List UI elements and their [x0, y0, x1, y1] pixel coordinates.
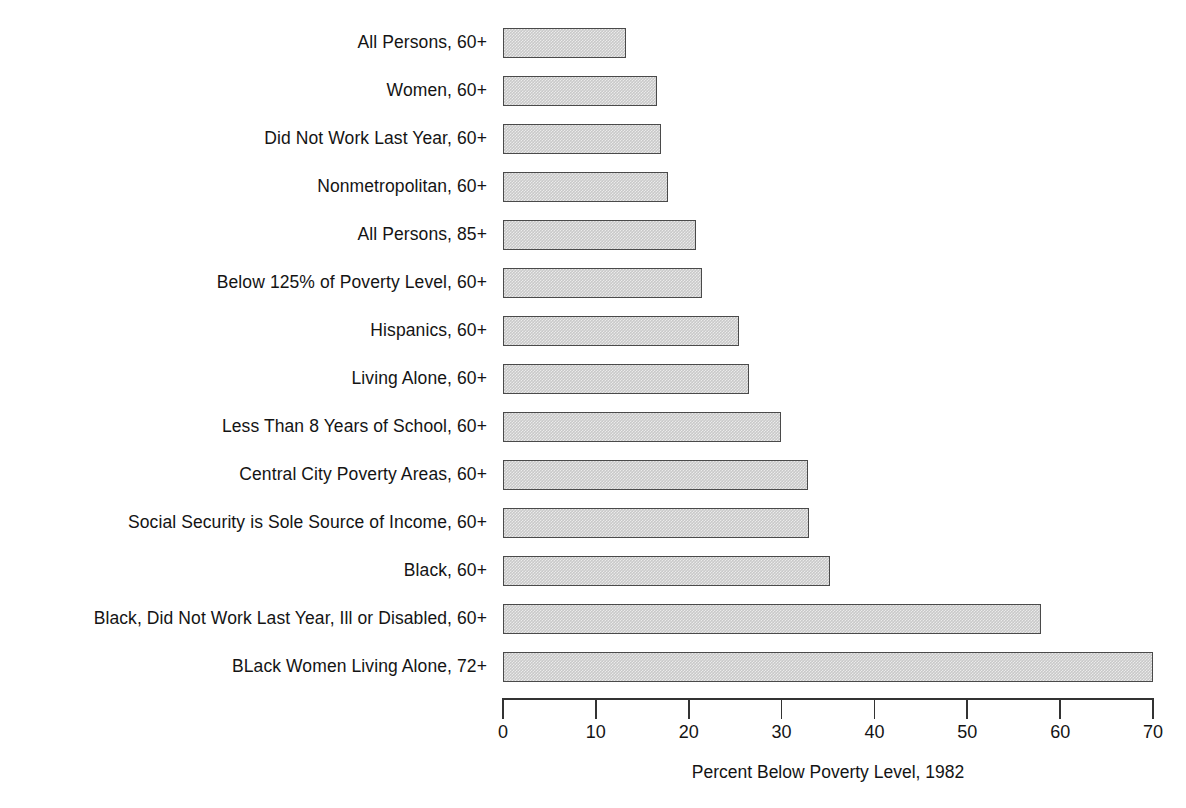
bar-row: Living Alone, 60+ — [0, 364, 1186, 394]
x-axis-tick — [688, 698, 690, 719]
bar-category-label: Social Security is Sole Source of Income… — [128, 514, 487, 532]
bar-category-label: Hispanics, 60+ — [370, 322, 487, 340]
bar-category-label: Below 125% of Poverty Level, 60+ — [217, 274, 487, 292]
bar-row: BLack Women Living Alone, 72+ — [0, 652, 1186, 682]
bar-category-label: Less Than 8 Years of School, 60+ — [222, 418, 487, 436]
bar — [503, 76, 657, 106]
bar — [503, 124, 661, 154]
bar-category-label: Living Alone, 60+ — [352, 370, 488, 388]
bar-category-label: All Persons, 60+ — [357, 34, 487, 52]
bar-category-label: Black, 60+ — [404, 562, 487, 580]
bar-row: Below 125% of Poverty Level, 60+ — [0, 268, 1186, 298]
x-axis-tick-label: 70 — [1143, 723, 1163, 741]
bar-row: Black, 60+ — [0, 556, 1186, 586]
bar-row: Nonmetropolitan, 60+ — [0, 172, 1186, 202]
bar — [503, 364, 749, 394]
bar-row: Black, Did Not Work Last Year, Ill or Di… — [0, 604, 1186, 634]
bar — [503, 412, 781, 442]
bar-row: Hispanics, 60+ — [0, 316, 1186, 346]
x-axis-tick — [1059, 698, 1061, 719]
bar — [503, 556, 830, 586]
bar-category-label: Central City Poverty Areas, 60+ — [239, 466, 487, 484]
bar-category-label: Nonmetropolitan, 60+ — [317, 178, 487, 196]
bar — [503, 508, 809, 538]
bar — [503, 172, 668, 202]
bar-row: All Persons, 85+ — [0, 220, 1186, 250]
x-axis-tick-label: 40 — [864, 723, 884, 741]
x-axis-title: Percent Below Poverty Level, 1982 — [503, 764, 1153, 782]
x-axis-tick — [966, 698, 968, 719]
bar-row: Social Security is Sole Source of Income… — [0, 508, 1186, 538]
bar-row: Central City Poverty Areas, 60+ — [0, 460, 1186, 490]
bar-category-label: Did Not Work Last Year, 60+ — [264, 130, 487, 148]
bar — [503, 460, 808, 490]
bar — [503, 268, 702, 298]
x-axis-tick-label: 60 — [1050, 723, 1070, 741]
x-axis-tick — [502, 698, 504, 719]
x-axis-tick-label: 20 — [679, 723, 699, 741]
bar — [503, 316, 739, 346]
bar-row: Women, 60+ — [0, 76, 1186, 106]
poverty-bar-chart: All Persons, 60+Women, 60+Did Not Work L… — [0, 0, 1186, 808]
bar — [503, 652, 1153, 682]
x-axis-tick-label: 30 — [772, 723, 792, 741]
x-axis-line — [503, 698, 1153, 700]
x-axis-tick-label: 10 — [586, 723, 606, 741]
x-axis-tick — [874, 698, 876, 719]
bar-category-label: Black, Did Not Work Last Year, Ill or Di… — [94, 610, 487, 628]
bar-category-label: Women, 60+ — [387, 82, 487, 100]
bar — [503, 220, 696, 250]
bar — [503, 604, 1041, 634]
x-axis-tick — [595, 698, 597, 719]
bar-row: Less Than 8 Years of School, 60+ — [0, 412, 1186, 442]
bar — [503, 28, 626, 58]
x-axis-tick-label: 0 — [498, 723, 508, 741]
bar-category-label: All Persons, 85+ — [357, 226, 487, 244]
x-axis-tick-label: 50 — [957, 723, 977, 741]
bar-category-label: BLack Women Living Alone, 72+ — [232, 658, 487, 676]
x-axis-tick — [1152, 698, 1154, 719]
bar-row: Did Not Work Last Year, 60+ — [0, 124, 1186, 154]
bar-row: All Persons, 60+ — [0, 28, 1186, 58]
x-axis-tick — [781, 698, 783, 719]
